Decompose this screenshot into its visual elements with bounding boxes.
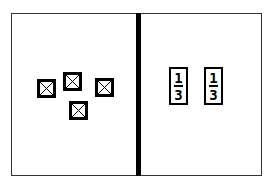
crossed-box-icon [63, 72, 82, 91]
crossed-box-icon [37, 79, 56, 98]
fraction-denominator: 3 [209, 88, 217, 103]
fraction-numerator: 1 [174, 71, 182, 87]
fraction-card: 1 3 [169, 67, 188, 105]
fraction-card: 1 3 [204, 67, 223, 105]
crossed-box-icon [95, 78, 114, 97]
fraction-denominator: 3 [174, 88, 182, 103]
panel-divider [136, 13, 141, 176]
fraction-numerator: 1 [209, 71, 217, 87]
crossed-box-icon [69, 101, 88, 120]
